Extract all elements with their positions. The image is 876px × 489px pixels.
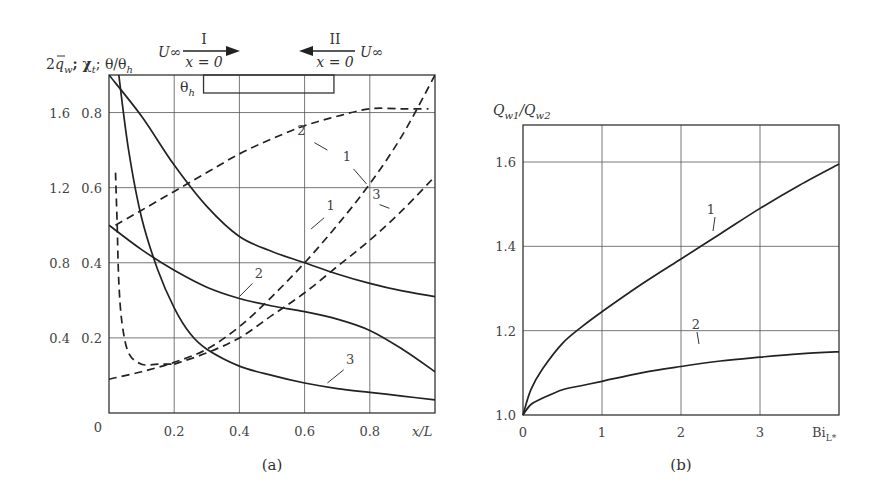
y-tick-outer: 0.8	[49, 256, 70, 271]
flow-direction-II: IIx = 0U∞	[299, 31, 383, 70]
series-solid-3	[119, 75, 435, 400]
curve-label: 2	[255, 266, 263, 281]
x-tick-label: 1	[598, 425, 606, 440]
curve-label-leader	[311, 218, 324, 229]
curve-label: 2	[692, 317, 700, 332]
figure: θh0.20.40.60.80x/L0.20.40.40.80.61.20.81…	[0, 0, 876, 489]
curve-label-leader	[239, 283, 252, 296]
y-tick-outer: 1.6	[49, 106, 70, 121]
x-eq-0-label: x = 0	[185, 54, 223, 70]
heated-section-marker	[204, 75, 334, 93]
curve-label-leader	[713, 217, 715, 231]
caption-b: (b)	[670, 456, 691, 474]
flow-II-label: II	[329, 31, 340, 47]
y-tick-outer: 0.4	[49, 331, 70, 346]
arrowhead-left-icon	[299, 46, 313, 56]
y-tick-inner: 0.2	[81, 331, 102, 346]
series-group-a	[109, 75, 435, 400]
series-solid-1	[109, 75, 435, 297]
x-tick-label: 0.6	[294, 424, 315, 439]
y-tick-label: 1.2	[495, 324, 516, 339]
curve-label-leader	[380, 205, 390, 209]
y-tick-label: 1.0	[495, 408, 516, 423]
origin-label: 0	[94, 420, 102, 435]
y-tick-inner: 0.8	[81, 106, 102, 121]
x-tick-label: 0.2	[164, 424, 185, 439]
curve-label-leader	[697, 332, 699, 344]
curve-label: 1	[343, 149, 351, 164]
x-tick-label: 0.8	[359, 424, 380, 439]
curve-label-leader	[354, 169, 367, 184]
series-dashed--h-near-x-0	[116, 173, 175, 365]
theta-h-label: θh	[180, 79, 195, 98]
y-axis-label-b: Qw1/Qw2	[493, 102, 551, 121]
caption-a: (a)	[262, 456, 283, 474]
series-dashed-1	[109, 75, 435, 379]
flow-direction-I: U∞Ix = 0	[158, 31, 240, 70]
curve-label: 3	[372, 187, 380, 202]
flow-I-label: I	[201, 31, 207, 47]
y-tick-label: 1.6	[495, 155, 516, 170]
x-tick-label: 0	[519, 425, 527, 440]
plot-frame-a	[109, 75, 435, 413]
curve-label-leader	[327, 370, 343, 383]
x-tick-label: 2	[677, 425, 685, 440]
y-tick-inner: 0.4	[81, 256, 102, 271]
x-axis-label: x/L	[412, 424, 432, 439]
y-tick-outer: 1.2	[49, 181, 70, 196]
chart-b: 1.01.21.41.60123BiL*Qw1/Qw212(b)	[493, 102, 839, 474]
curve-label: 3	[346, 352, 354, 367]
curve-label: 2	[297, 123, 305, 138]
u-inf-label: U∞	[360, 44, 383, 60]
u-inf-label: U∞	[158, 44, 181, 60]
x-eq-0-label: x = 0	[316, 54, 354, 70]
x-tick-label: 3	[756, 425, 764, 440]
series-solid-2	[109, 225, 435, 372]
x-tick-label: 0.4	[229, 424, 250, 439]
curve-label-leader	[314, 143, 327, 151]
chart-a: θh0.20.40.60.80x/L0.20.40.40.80.61.20.81…	[46, 31, 435, 474]
y-tick-label: 1.4	[495, 239, 516, 254]
arrowhead-right-icon	[226, 46, 240, 56]
y-tick-inner: 0.6	[81, 181, 102, 196]
y-axis-label-a: 2qw; χt; θ/θh	[46, 56, 133, 75]
curve-label: 1	[707, 202, 715, 217]
x-axis-label-b: BiL*	[812, 425, 837, 443]
curve-label: 1	[327, 198, 335, 213]
